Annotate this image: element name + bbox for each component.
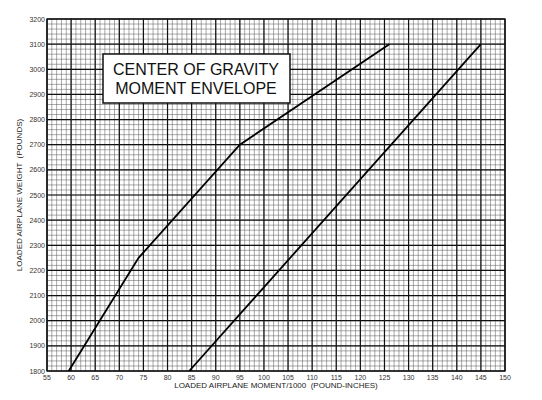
x-tick-label: 75 [140,374,148,381]
y-tick-label: 2000 [29,317,45,324]
y-tick-label: 2800 [29,116,45,123]
x-tick-label: 135 [427,374,439,381]
x-tick-label: 125 [379,374,391,381]
y-tick-label: 2400 [29,217,45,224]
y-tick-label: 2500 [29,192,45,199]
x-tick-label: 70 [115,374,123,381]
y-tick-label: 1900 [29,342,45,349]
x-tick-label: 150 [499,374,511,381]
x-tick-label: 115 [331,374,342,381]
y-axis-label: LOADED AIRPLANE WEIGHT (POUNDS) [15,119,24,272]
x-tick-label: 145 [475,374,487,381]
x-axis-label: LOADED AIRPLANE MOMENT/1000 (POUND-INCHE… [174,381,378,390]
x-tick-label: 120 [355,374,367,381]
y-axis-ticks: 1800190020002100220023002400250026002700… [29,16,45,375]
y-tick-label: 2700 [29,141,45,148]
y-tick-label: 2200 [29,267,45,274]
x-tick-label: 60 [67,374,75,381]
title-box: CENTER OF GRAVITY MOMENT ENVELOPE [103,54,290,103]
x-tick-label: 80 [164,374,172,381]
x-tick-label: 65 [91,374,99,381]
y-tick-label: 2900 [29,91,45,98]
y-tick-label: 2600 [29,166,45,173]
chart-title-line1: CENTER OF GRAVITY [113,61,279,78]
x-tick-label: 130 [403,374,415,381]
chart-title-line2: MOMENT ENVELOPE [115,80,277,97]
y-tick-label: 3000 [29,66,45,73]
x-tick-label: 100 [258,374,270,381]
x-tick-label: 105 [282,374,294,381]
x-tick-label: 110 [307,374,318,381]
x-tick-label: 90 [212,374,220,381]
y-tick-label: 3200 [29,16,45,23]
x-tick-label: 95 [236,374,244,381]
x-tick-label: 55 [43,374,51,381]
x-axis-ticks: 5560657075808590951001051101151201251301… [43,374,511,381]
cg-moment-envelope-chart: 1800190020002100220023002400250026002700… [0,0,542,400]
y-tick-label: 3100 [29,41,45,48]
y-tick-label: 2300 [29,242,45,249]
y-tick-label: 2100 [29,292,45,299]
x-tick-label: 140 [451,374,463,381]
x-tick-label: 85 [188,374,196,381]
